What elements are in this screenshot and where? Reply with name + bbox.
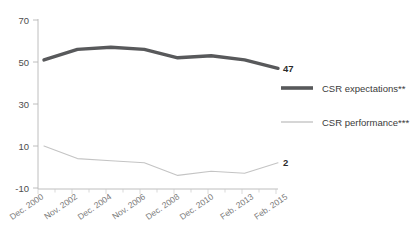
series-line-csr-expectations (44, 47, 278, 68)
legend-label-expectations: CSR expectations** (322, 83, 406, 94)
x-tick-label: Dec. 2000 (8, 191, 46, 222)
chart-container: 70 50 30 10 -10 47 2 (0, 0, 410, 241)
legend-item-csr-expectations[interactable]: CSR expectations** (281, 83, 406, 94)
x-tick-label: Nov. 2006 (110, 191, 147, 221)
line-chart: 70 50 30 10 -10 47 2 (0, 0, 410, 241)
x-tick-label: Dec. 2010 (178, 191, 216, 222)
y-tick-label: 70 (18, 15, 29, 26)
series-line-csr-performance (44, 146, 278, 175)
chart-legend: CSR expectations** CSR performance*** (281, 83, 409, 128)
series-end-label-performance: 2 (283, 157, 288, 168)
x-tick-label: Dec. 2004 (76, 191, 114, 222)
y-axis-ticks (33, 20, 38, 188)
x-tick-label: Feb. 2013 (218, 191, 255, 221)
y-tick-label: -10 (15, 183, 29, 194)
x-tick-label: Dec. 2008 (144, 191, 182, 222)
y-tick-label: 50 (18, 57, 29, 68)
legend-item-csr-performance[interactable]: CSR performance*** (281, 117, 409, 128)
y-tick-label: 10 (18, 141, 29, 152)
y-tick-label: 30 (18, 99, 29, 110)
x-tick-label: Feb. 2015 (252, 191, 289, 221)
x-axis-tick-labels: Dec. 2000 Nov. 2002 Dec. 2004 Nov. 2006 … (8, 191, 290, 222)
x-tick-label: Nov. 2002 (42, 191, 79, 221)
legend-label-performance: CSR performance*** (322, 117, 409, 128)
series-end-label-expectations: 47 (283, 63, 294, 74)
